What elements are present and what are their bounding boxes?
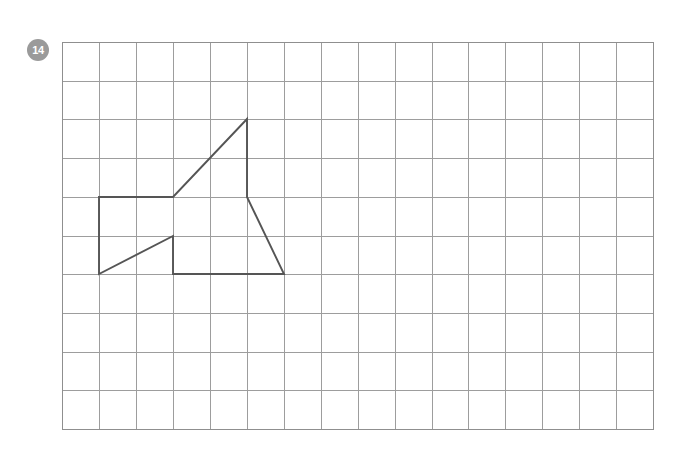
grid-lines-group xyxy=(62,42,653,429)
grid-figure-svg xyxy=(0,0,680,460)
polygon-shape xyxy=(99,119,284,274)
worksheet-page: 14 xyxy=(0,0,680,460)
grid-canvas xyxy=(0,0,680,460)
